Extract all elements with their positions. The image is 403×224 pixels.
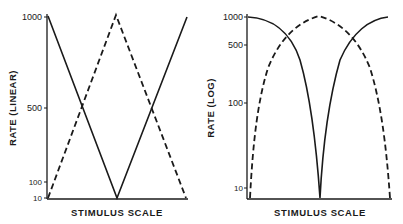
left-dashed-series (48, 15, 186, 198)
right-y-label: RATE (LOG) (205, 78, 216, 138)
left-y-label: RATE (LINEAR) (7, 70, 18, 146)
left-tick-500: 500 (27, 103, 42, 113)
right-x-label: STIMULUS SCALE (274, 207, 366, 218)
right-tick-500: 500 (228, 40, 243, 50)
left-solid-series (48, 16, 187, 198)
left-tick-10: 10 (33, 194, 42, 203)
right-tick-10: 10 (234, 184, 243, 193)
figure: 1000 500 100 10 RATE (LINEAR) STIMULUS S… (0, 0, 403, 224)
right-tick-1000: 1000 (223, 12, 243, 22)
right-chart-log: 1000 500 100 10 RATE (LOG) STIMULUS SCAL… (205, 12, 392, 218)
left-chart-linear: 1000 500 100 10 RATE (LINEAR) STIMULUS S… (7, 12, 188, 218)
right-solid-series (248, 17, 388, 198)
right-tick-100: 100 (228, 98, 243, 108)
left-x-label: STIMULUS SCALE (71, 207, 163, 218)
left-tick-100: 100 (29, 178, 43, 187)
right-dashed-series (250, 16, 390, 198)
left-tick-1000: 1000 (22, 12, 42, 22)
